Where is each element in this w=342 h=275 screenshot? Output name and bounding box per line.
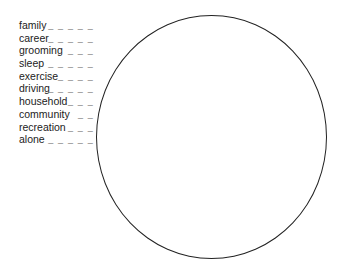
fill-in-blank: _ _ _: [68, 95, 94, 108]
activity-row-alone: alone_ _ _ _ _: [19, 133, 94, 146]
activity-row-recreation: recreation_ _ _: [19, 121, 94, 134]
activity-list: family_ _ _ _ _ career_ _ _ _ _ grooming…: [19, 19, 94, 146]
fill-in-blank: _ _ _ _ _: [48, 133, 94, 146]
activity-row-community: community_ _: [19, 108, 94, 121]
activity-row-career: career_ _ _ _ _: [19, 32, 94, 45]
fill-in-blank: _ _ _ _ _: [48, 82, 94, 95]
activity-row-family: family_ _ _ _ _: [19, 19, 94, 32]
fill-in-blank: _ _ _: [68, 44, 94, 57]
fill-in-blank: _ _ _ _ _: [48, 19, 94, 32]
activity-label: exercise: [19, 70, 58, 83]
activity-label: career: [19, 32, 49, 45]
activity-row-exercise: exercise_ _ _ _: [19, 70, 94, 83]
activity-label: recreation: [19, 121, 66, 134]
pie-circle-outline: [96, 15, 327, 259]
activity-label: grooming: [19, 44, 63, 57]
activity-label: household: [19, 95, 67, 108]
activity-label: community: [19, 108, 70, 121]
activity-label: driving: [19, 82, 50, 95]
activity-label: family: [19, 19, 46, 32]
fill-in-blank: _ _ _ _: [58, 70, 94, 83]
fill-in-blank: _ _: [78, 108, 94, 121]
activity-row-driving: driving_ _ _ _ _: [19, 82, 94, 95]
fill-in-blank: _ _ _: [68, 121, 94, 134]
fill-in-blank: _ _ _ _ _: [48, 57, 94, 70]
activity-row-grooming: grooming_ _ _: [19, 44, 94, 57]
activity-row-sleep: sleep_ _ _ _ _: [19, 57, 94, 70]
activity-label: sleep: [19, 57, 44, 70]
fill-in-blank: _ _ _ _ _: [48, 32, 94, 45]
activity-label: alone: [19, 133, 45, 146]
activity-row-household: household_ _ _: [19, 95, 94, 108]
